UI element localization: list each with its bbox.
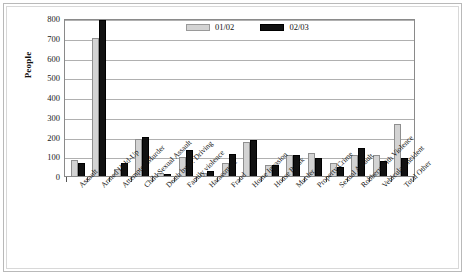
legend-swatch-black-icon [260, 24, 284, 31]
bar [71, 160, 78, 176]
bar-group [240, 20, 262, 176]
x-axis-tick-labels: AssaultArmed Hold-UpAttempted MurderChil… [64, 182, 415, 272]
y-tick-label-700: 700 [26, 35, 60, 44]
bar-group [89, 20, 111, 176]
y-axis-tick-labels: 0100200300400500600700800 [26, 19, 60, 177]
x-label-cell: Attempted Murder [109, 182, 131, 272]
x-label-cell: House Break [261, 182, 283, 272]
bar [92, 38, 99, 176]
y-tick-label-200: 200 [26, 133, 60, 142]
y-tick-label-600: 600 [26, 54, 60, 63]
x-label-cell: Fraud [218, 182, 240, 272]
x-label-cell: Sexual Assault [326, 182, 348, 272]
x-label-cell: Child Sexual Assault [131, 182, 153, 272]
legend-label-0: 01/02 [215, 22, 234, 32]
bar-group [369, 20, 391, 176]
y-tick-label-400: 400 [26, 94, 60, 103]
legend-swatch-gray-icon [186, 24, 210, 31]
x-label-cell: Armed Hold-Up [88, 182, 110, 272]
x-label-cell: Home Invasion [240, 182, 262, 272]
legend-item-0: 01/02 [186, 22, 234, 32]
y-tick-label-0: 0 [26, 173, 60, 182]
chart-legend: 01/02 02/03 [186, 22, 309, 32]
x-label-cell: Robbery with Violence [348, 182, 370, 272]
x-label-cell: Assault [66, 182, 88, 272]
x-label-cell: Harassment [196, 182, 218, 272]
chart-figure: People 0100200300400500600700800 Assault… [0, 0, 466, 276]
legend-item-1: 02/03 [260, 22, 308, 32]
bar-group [67, 20, 89, 176]
legend-label-1: 02/03 [289, 22, 308, 32]
y-tick-label-300: 300 [26, 114, 60, 123]
x-label-cell: Total Other [391, 182, 413, 272]
x-label-cell: Death by D. Driving [153, 182, 175, 272]
x-label-cell: Murder [283, 182, 305, 272]
bar [78, 163, 85, 176]
x-label-cell: Vehicular Incident [370, 182, 392, 272]
x-label-cell: Family violence [174, 182, 196, 272]
bar-group [304, 20, 326, 176]
bar [250, 140, 257, 176]
y-tick-label-500: 500 [26, 74, 60, 83]
bar [243, 142, 250, 176]
y-tick-label-100: 100 [26, 153, 60, 162]
bar [99, 20, 106, 176]
x-label-cell: Property Crime [305, 182, 327, 272]
y-tick-label-800: 800 [26, 15, 60, 24]
bar-series-container [65, 20, 414, 176]
plot-area [64, 19, 415, 177]
